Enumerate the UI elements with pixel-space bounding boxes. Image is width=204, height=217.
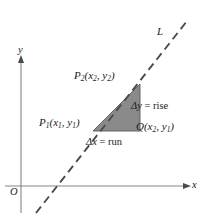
x-axis-arrowhead (183, 183, 191, 189)
x-axis (5, 183, 191, 189)
x-axis-label: x (192, 180, 197, 191)
point-p1-label: P1(x1, y1) (39, 117, 80, 128)
y-axis-arrowhead (18, 55, 24, 63)
y-axis-label: y (18, 45, 23, 56)
point-q-label: Q(x2, y1) (136, 121, 174, 132)
point-p2-label: P2(x2, y2) (74, 70, 115, 81)
rise-annotation: Δy = rise (131, 101, 168, 112)
y-axis (18, 55, 24, 213)
line-label-L: L (157, 26, 163, 37)
slope-diagram-figure: P2(x2, y2) P1(x1, y1) Q(x2, y1) Δy = ris… (0, 0, 204, 217)
diagram-canvas (0, 0, 204, 217)
origin-label: O (10, 187, 18, 198)
run-annotation: Δx = run (86, 137, 122, 148)
